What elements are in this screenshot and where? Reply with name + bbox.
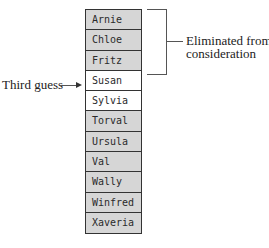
name-list: Arnie Chloe Fritz Susan Sylvia Torval Ur… (85, 9, 142, 234)
list-item-xaveria: Xaveria (85, 212, 142, 234)
list-item-fritz: Fritz (85, 50, 142, 72)
list-item-susan: Susan (85, 70, 142, 92)
list-item-val: Val (85, 151, 142, 173)
bracket-label-line2: consideration (186, 46, 256, 62)
list-item-arnie: Arnie (85, 9, 142, 31)
list-item-winfred: Winfred (85, 192, 142, 214)
list-item-sylvia: Sylvia (85, 90, 142, 112)
third-guess-label: Third guess (2, 77, 63, 93)
list-item-ursula: Ursula (85, 131, 142, 153)
list-item-torval: Torval (85, 110, 142, 132)
list-item-wally: Wally (85, 171, 142, 193)
list-item-chloe: Chloe (85, 29, 142, 51)
